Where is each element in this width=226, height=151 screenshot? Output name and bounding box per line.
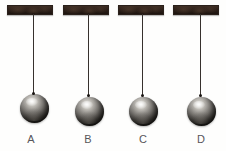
pendulum-string-c bbox=[142, 14, 143, 96]
pendulum-label-a: A bbox=[11, 133, 51, 145]
pendulum-bob-b bbox=[75, 97, 104, 126]
bob-reflected-light-a bbox=[22, 108, 46, 121]
bob-reflected-light-b bbox=[77, 111, 101, 124]
pendulum-string-d bbox=[200, 14, 201, 96]
bob-highlight-d bbox=[193, 101, 205, 110]
bob-highlight-b bbox=[81, 101, 93, 110]
pendulum-label-c: C bbox=[123, 133, 163, 145]
ceiling-support-b bbox=[63, 5, 109, 15]
pendulum-string-b bbox=[88, 14, 89, 96]
bob-highlight-a bbox=[26, 98, 38, 107]
bob-reflected-light-c bbox=[131, 111, 155, 124]
pendulum-label-d: D bbox=[181, 133, 221, 145]
pendulum-figure: A B C D bbox=[0, 0, 226, 151]
pendulum-string-a bbox=[33, 14, 34, 94]
pendulum-bob-c bbox=[129, 97, 158, 126]
ceiling-support-d bbox=[173, 5, 219, 15]
bob-highlight-c bbox=[135, 101, 147, 110]
bob-reflected-light-d bbox=[189, 111, 213, 124]
pendulum-label-b: B bbox=[68, 133, 108, 145]
ceiling-support-a bbox=[7, 5, 53, 15]
pendulum-bob-a bbox=[20, 94, 49, 123]
pendulum-bob-d bbox=[187, 97, 216, 126]
